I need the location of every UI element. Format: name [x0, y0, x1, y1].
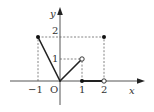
guide-lines — [38, 37, 104, 81]
y-axis-arrow-icon — [57, 7, 63, 15]
function-graph: y x O −1 1 2 1 2 — [0, 0, 154, 112]
x-axis-label: x — [129, 85, 135, 96]
segment-2 — [60, 61, 81, 82]
y-axis-label: y — [49, 8, 56, 19]
x-axis-arrow-icon — [137, 78, 145, 84]
y-tick-label-2: 2 — [52, 25, 58, 36]
x-tick-label-neg1: −1 — [28, 84, 43, 95]
closed-point-1-0 — [80, 79, 84, 83]
function-curve — [38, 37, 102, 81]
x-tick-label-2: 2 — [101, 84, 107, 95]
open-point-2-0 — [102, 79, 106, 83]
closed-point-2-2 — [102, 35, 106, 39]
x-tick-label-1: 1 — [79, 84, 85, 95]
closed-point-neg1-2 — [36, 35, 40, 39]
y-tick-label-1: 1 — [52, 53, 58, 64]
origin-label: O — [50, 84, 58, 95]
open-point-1-1 — [80, 57, 84, 61]
